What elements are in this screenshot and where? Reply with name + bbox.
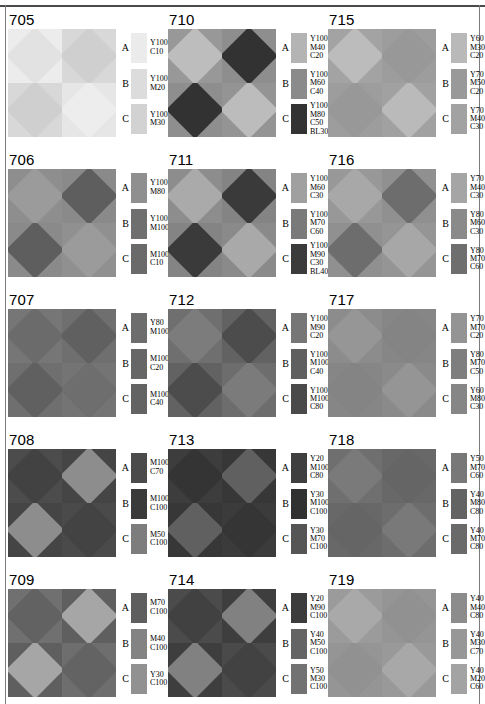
pattern-cell: [8, 643, 62, 697]
swatch-letter: A: [440, 43, 449, 53]
swatch-letter: C: [280, 394, 289, 404]
pattern-cell: [168, 503, 222, 557]
swatch-letter: B: [280, 219, 289, 229]
swatch-ink-spec: M100C20: [150, 355, 169, 372]
ink-line: C100: [310, 543, 327, 551]
swatch-ink-spec: M100C10: [150, 251, 169, 268]
diamond-pattern: [168, 309, 276, 417]
pattern-diamond: [328, 589, 382, 643]
pattern-diamond: [168, 309, 222, 363]
swatch-row: BM100C20: [120, 346, 169, 382]
panel-body: AY20M100C80BY30M100C100CY30M70C100: [168, 449, 328, 567]
swatch-ink-spec: Y40M20C60: [470, 667, 485, 692]
diamond-pattern: [168, 449, 276, 557]
panel-number: 717: [328, 292, 478, 309]
color-panel: 708AM100C70BM100C100CM50C100: [8, 432, 168, 572]
color-panel: 711AY100M60C30BY100M70C60CY100M90C30BL40: [168, 152, 328, 292]
pattern-cell: [8, 83, 62, 137]
color-swatch: [131, 69, 147, 99]
ink-line: M100: [150, 328, 169, 336]
swatch-legend: AY40M40C80BY40M30C70CY40M20C60: [440, 589, 485, 697]
panel-body: AY100M40C20BY100M60C40CY100M80C50BL30: [168, 29, 328, 147]
swatch-legend: AY60M30C20BY70M50C20CY70M40C30: [440, 29, 485, 137]
ink-line: C80: [310, 472, 329, 480]
ink-line: C20: [310, 332, 328, 340]
swatch-letter: C: [440, 674, 449, 684]
pattern-cell: [8, 223, 62, 277]
pattern-cell: [382, 223, 436, 277]
ink-line: C30: [470, 192, 485, 200]
swatch-letter: A: [440, 183, 449, 193]
swatch-letter: A: [440, 463, 449, 473]
pattern-cell: [8, 169, 62, 223]
swatch-legend: AY100M60C30BY100M70C60CY100M90C30BL40: [280, 169, 328, 277]
ink-line: C20: [470, 52, 485, 60]
swatch-letter: C: [440, 254, 449, 264]
swatch-row: CM50C100: [120, 521, 169, 557]
swatch-ink-spec: M100C70: [150, 459, 169, 476]
ink-line: C50: [470, 368, 485, 376]
ink-line: M80: [150, 188, 168, 196]
panel-number: 712: [168, 292, 328, 309]
pattern-diamond: [382, 169, 436, 223]
pattern-cell: [168, 309, 222, 363]
pattern-cell: [382, 29, 436, 83]
swatch-row: CY100M90C30BL40: [280, 241, 328, 277]
swatch-row: AY50M70C60: [440, 450, 485, 486]
pattern-diamond: [382, 503, 436, 557]
pattern-diamond: [8, 503, 62, 557]
swatch-letter: B: [440, 219, 449, 229]
swatch-row: CM100C40: [120, 381, 169, 417]
swatch-letter: A: [280, 323, 289, 333]
color-swatch: [131, 664, 147, 694]
swatch-row: AM70C100: [120, 590, 167, 626]
ink-line: C70: [470, 648, 485, 656]
pattern-diamond: [62, 363, 116, 417]
pattern-cell: [168, 589, 222, 643]
color-swatch: [451, 313, 467, 343]
pattern-diamond: [222, 83, 276, 137]
swatch-ink-spec: Y70M40C30: [470, 107, 485, 132]
pattern-cell: [222, 589, 276, 643]
color-panel: 719AY40M40C80BY40M30C70CY40M20C60: [328, 572, 478, 704]
ink-line: C20: [470, 88, 485, 96]
swatch-letter: C: [120, 674, 129, 684]
swatch-ink-spec: Y80M60C30: [470, 211, 485, 236]
ink-line: C60: [470, 472, 485, 480]
diamond-pattern: [8, 29, 116, 137]
swatch-letter: A: [280, 43, 289, 53]
swatch-row: CY40M70C80: [440, 521, 485, 557]
ink-line: M20: [150, 84, 168, 92]
color-panel: 718AY50M70C60BY40M80C80CY40M70C80: [328, 432, 478, 572]
swatch-ink-spec: Y20M100C80: [310, 455, 329, 480]
pattern-diamond: [168, 503, 222, 557]
pattern-diamond: [8, 169, 62, 223]
color-swatch: [291, 384, 307, 414]
diamond-pattern: [8, 309, 116, 417]
pattern-diamond: [168, 223, 222, 277]
swatch-legend: AY70M40C30BY80M60C30CY80M70C60: [440, 169, 485, 277]
swatch-letter: B: [440, 79, 449, 89]
pattern-diamond: [328, 449, 382, 503]
pattern-cell: [62, 363, 116, 417]
swatch-row: AY70M70C20: [440, 310, 485, 346]
color-swatch: [131, 349, 147, 379]
color-swatch: [131, 209, 147, 239]
pattern-diamond: [222, 223, 276, 277]
swatch-ink-spec: M100C40: [150, 391, 169, 408]
swatch-letter: B: [440, 499, 449, 509]
ink-line: C80: [470, 508, 485, 516]
color-swatch: [451, 593, 467, 623]
swatch-letter: C: [440, 394, 449, 404]
pattern-cell: [62, 643, 116, 697]
pattern-cell: [168, 363, 222, 417]
pattern-cell: [382, 309, 436, 363]
swatch-letter: A: [120, 43, 129, 53]
pattern-diamond: [168, 169, 222, 223]
color-swatch: [131, 173, 147, 203]
swatch-legend: AY100M80BY100M100CM100C10: [120, 169, 169, 277]
swatch-row: CY60M80C30: [440, 381, 485, 417]
ink-line: C30: [470, 123, 485, 131]
swatch-letter: C: [280, 674, 289, 684]
color-swatch: [131, 313, 147, 343]
